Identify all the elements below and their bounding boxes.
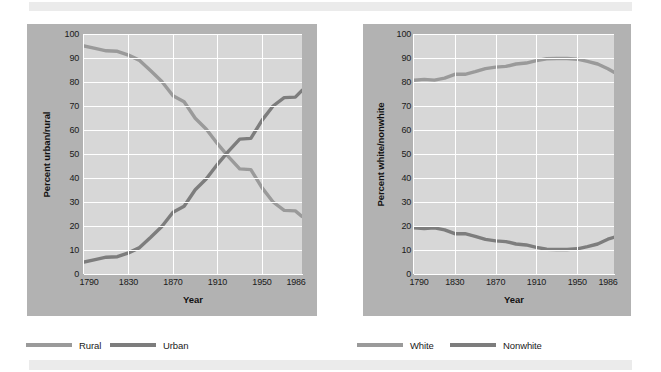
y-tick-label: 50	[69, 149, 79, 159]
legend-label-urban: Urban	[163, 340, 188, 351]
charts-row: Percent urban/rural 01020304050607080901…	[0, 24, 661, 319]
gridline-horizontal	[414, 82, 614, 83]
gridline-vertical	[217, 34, 218, 274]
gridline-vertical	[496, 34, 497, 274]
y-tick-label: 100	[397, 29, 411, 39]
series-line-nonwhite	[414, 228, 614, 250]
gridline-vertical	[536, 34, 537, 274]
legend-item-urban: Urban	[110, 338, 188, 352]
x-axis-label-right: Year	[414, 294, 614, 305]
legend-item-rural: Rural	[26, 338, 101, 352]
y-tick-label: 90	[401, 53, 411, 63]
legend-swatch-urban	[110, 343, 156, 347]
y-tick-label: 100	[65, 29, 79, 39]
x-tick-label: 1986	[286, 277, 305, 287]
y-tick-label: 10	[401, 245, 411, 255]
plot-area-right	[414, 34, 614, 274]
gridline-vertical	[173, 34, 174, 274]
y-tick-label: 70	[69, 101, 79, 111]
legend-label-rural: Rural	[79, 340, 101, 351]
gridline-horizontal	[414, 34, 614, 35]
y-tick-label: 40	[69, 173, 79, 183]
y-axis-ticks-right: 0102030405060708090100	[387, 30, 413, 278]
gridline-vertical	[577, 34, 578, 274]
gridline-horizontal	[84, 250, 302, 251]
x-axis-line-left	[84, 274, 303, 275]
x-tick-label: 1830	[119, 277, 138, 287]
legend-label-nonwhite: Nonwhite	[503, 340, 542, 351]
gridline-horizontal	[414, 154, 614, 155]
x-tick-label: 1830	[445, 277, 464, 287]
x-axis-label-left: Year	[84, 294, 302, 305]
x-tick-label: 1950	[568, 277, 587, 287]
legend-swatch-white	[357, 343, 403, 347]
x-tick-label: 1910	[208, 277, 227, 287]
legend-item-white: White	[357, 338, 434, 352]
gridline-horizontal	[84, 58, 302, 59]
x-tick-label: 1950	[252, 277, 271, 287]
y-tick-label: 0	[74, 269, 79, 279]
x-tick-label: 1870	[163, 277, 182, 287]
y-tick-label: 20	[69, 221, 79, 231]
y-tick-label: 80	[69, 77, 79, 87]
y-axis-label-left: Percent urban/rural	[39, 30, 55, 278]
gridline-horizontal	[84, 34, 302, 35]
y-tick-label: 40	[401, 173, 411, 183]
y-axis-ticks-left: 0102030405060708090100	[55, 30, 81, 278]
x-tick-label: 1910	[527, 277, 546, 287]
y-tick-label: 30	[401, 197, 411, 207]
x-axis-line-right	[414, 274, 615, 275]
legend-swatch-nonwhite	[450, 343, 496, 347]
chart-white-nonwhite: Percent white/nonwhite 01020304050607080…	[363, 24, 631, 316]
x-tick-label: 1790	[79, 277, 98, 287]
x-axis-ticks-left: 179018301870191019501986	[84, 277, 302, 291]
x-tick-label: 1870	[486, 277, 505, 287]
x-axis-ticks-right: 179018301870191019501986	[414, 277, 614, 291]
y-tick-label: 10	[69, 245, 79, 255]
plot-area-left	[84, 34, 302, 274]
gridline-horizontal	[84, 178, 302, 179]
y-tick-label: 80	[401, 77, 411, 87]
gridline-horizontal	[414, 106, 614, 107]
x-tick-label: 1790	[409, 277, 428, 287]
figure-page: Percent urban/rural 01020304050607080901…	[0, 0, 661, 372]
gridline-horizontal	[84, 154, 302, 155]
legend-label-white: White	[410, 340, 434, 351]
gridline-horizontal	[414, 250, 614, 251]
gridline-horizontal	[414, 226, 614, 227]
gridline-vertical	[455, 34, 456, 274]
y-tick-label: 60	[401, 125, 411, 135]
y-tick-label: 50	[401, 149, 411, 159]
chart-urban-rural: Percent urban/rural 01020304050607080901…	[27, 24, 317, 316]
gridline-horizontal	[84, 82, 302, 83]
bottom-band	[29, 360, 632, 370]
legend-swatch-rural	[26, 343, 72, 347]
gridline-horizontal	[414, 58, 614, 59]
y-tick-label: 60	[69, 125, 79, 135]
top-band	[29, 2, 632, 11]
gridline-horizontal	[414, 130, 614, 131]
legend-item-nonwhite: Nonwhite	[450, 338, 542, 352]
y-tick-label: 20	[401, 221, 411, 231]
gridline-horizontal	[84, 106, 302, 107]
gridline-horizontal	[414, 202, 614, 203]
gridline-horizontal	[84, 130, 302, 131]
y-tick-label: 30	[69, 197, 79, 207]
series-line-white	[414, 58, 614, 80]
x-tick-label: 1986	[598, 277, 617, 287]
y-tick-label: 90	[69, 53, 79, 63]
y-tick-label: 70	[401, 101, 411, 111]
gridline-vertical	[262, 34, 263, 274]
gridline-horizontal	[414, 178, 614, 179]
gridline-horizontal	[84, 202, 302, 203]
legend: Rural Urban White Nonwhite	[0, 338, 661, 356]
gridline-horizontal	[84, 226, 302, 227]
gridline-vertical	[128, 34, 129, 274]
